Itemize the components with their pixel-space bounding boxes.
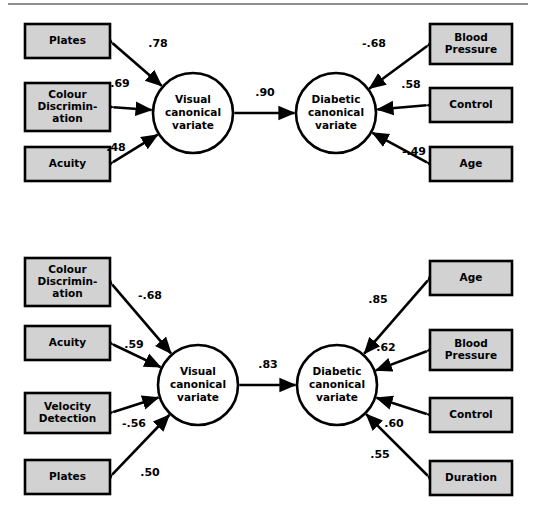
bottom-left-box-label-2-line: Detection bbox=[39, 412, 97, 424]
bottom-right-coefficient-2: .60 bbox=[384, 417, 404, 430]
top-left-coefficient-0: .78 bbox=[148, 37, 168, 50]
top-right-box-label-0-line: Blood bbox=[454, 31, 488, 43]
bottom-right-oval-label-line: Diabetic bbox=[313, 365, 362, 377]
top-left-box-label-1-line: ation bbox=[52, 112, 82, 124]
bottom-right-box-label-1-line: Pressure bbox=[445, 349, 497, 361]
top-left-box-label-0-line: Plates bbox=[49, 34, 86, 46]
bottom-center-coefficient: .83 bbox=[258, 358, 278, 371]
bottom-left-connector-2 bbox=[113, 398, 158, 412]
top-left-box-label-2-line: Acuity bbox=[49, 157, 86, 169]
top-left-box-label-1-line: Colour bbox=[48, 88, 87, 100]
top-right-box-label-2-line: Age bbox=[460, 157, 483, 169]
path-diagram-figure: PlatesColourDiscrimin-ationAcuityBloodPr… bbox=[0, 0, 534, 526]
bottom-left-box-label-1: Acuity bbox=[49, 336, 86, 348]
top-right-box-label-2: Age bbox=[460, 157, 483, 169]
bottom-left-connector-2-line bbox=[113, 398, 158, 412]
bottom-right-box-label-0-line: Age bbox=[460, 271, 483, 283]
top-left-oval-label-line: variate bbox=[172, 119, 214, 131]
bottom-left-box-label-0-line: Discrimin- bbox=[38, 275, 98, 287]
top-right-oval-label-line: canonical bbox=[308, 106, 364, 118]
bottom-right-box-label-3: Duration bbox=[445, 471, 497, 483]
top-left-coefficient-1: .69 bbox=[110, 77, 130, 90]
bottom-right-connector-0-line bbox=[364, 281, 427, 354]
top-right-oval-label-line: variate bbox=[315, 119, 357, 131]
top-center-coefficient: .90 bbox=[255, 86, 275, 99]
bottom-right-coefficient-0: .85 bbox=[368, 293, 388, 306]
diagram-top: PlatesColourDiscrimin-ationAcuityBloodPr… bbox=[25, 24, 512, 181]
top-right-box-label-1-line: Control bbox=[449, 98, 492, 110]
top-left-box-label-0: Plates bbox=[49, 34, 86, 46]
diagram-canvas: PlatesColourDiscrimin-ationAcuityBloodPr… bbox=[0, 0, 534, 526]
top-left-coefficient-2: .48 bbox=[106, 141, 126, 154]
bottom-right-connector-1-line bbox=[376, 351, 427, 370]
bottom-right-connector-2-line bbox=[376, 398, 426, 414]
bottom-left-box-label-3-line: Plates bbox=[49, 470, 86, 482]
top-left-box-label-2: Acuity bbox=[49, 157, 86, 169]
bottom-left-box-label-3: Plates bbox=[49, 470, 86, 482]
bottom-right-box-label-1-line: Blood bbox=[454, 337, 488, 349]
bottom-left-coefficient-0: -.68 bbox=[138, 289, 162, 302]
bottom-left-coefficient-3: .50 bbox=[140, 466, 160, 479]
top-right-connector-1-line bbox=[377, 105, 426, 109]
bottom-left-box-label-0-line: ation bbox=[52, 287, 82, 299]
bottom-right-connector-1 bbox=[376, 351, 427, 370]
top-right-coefficient-1: .58 bbox=[401, 78, 421, 91]
top-left-oval-label-line: canonical bbox=[165, 106, 221, 118]
diagram-bottom: ColourDiscrimin-ationAcuityVelocityDetec… bbox=[25, 258, 512, 495]
bottom-left-oval-label-line: canonical bbox=[170, 378, 226, 390]
bottom-right-box-label-2-line: Control bbox=[449, 408, 492, 420]
bottom-left-box-label-2: VelocityDetection bbox=[39, 400, 97, 424]
top-left-box-label-1-line: Discrimin- bbox=[38, 100, 98, 112]
top-right-oval-label-line: Diabetic bbox=[312, 93, 361, 105]
bottom-left-box-label-0-line: Colour bbox=[48, 263, 87, 275]
bottom-left-coefficient-2: -.56 bbox=[122, 417, 146, 430]
bottom-right-connector-2 bbox=[376, 398, 426, 414]
bottom-left-box-label-1-line: Acuity bbox=[49, 336, 86, 348]
top-right-connector-1 bbox=[377, 105, 426, 109]
bottom-right-coefficient-3: .55 bbox=[370, 448, 390, 461]
bottom-right-oval-label-line: variate bbox=[316, 391, 358, 403]
bottom-right-box-label-0: Age bbox=[460, 271, 483, 283]
top-right-coefficient-2: -.49 bbox=[402, 145, 426, 158]
top-left-connector-1-line bbox=[113, 107, 151, 110]
bottom-right-box-label-2: Control bbox=[449, 408, 492, 420]
bottom-right-oval-label: Diabeticcanonicalvariate bbox=[309, 365, 365, 402]
bottom-right-connector-0 bbox=[364, 281, 427, 354]
top-left-oval-label-line: Visual bbox=[175, 93, 211, 105]
top-right-coefficient-0: -.68 bbox=[362, 37, 386, 50]
bottom-left-coefficient-1: .59 bbox=[124, 338, 144, 351]
top-divider-rule bbox=[8, 3, 528, 5]
bottom-right-oval-label-line: canonical bbox=[309, 378, 365, 390]
top-right-box-label-1: Control bbox=[449, 98, 492, 110]
bottom-left-oval-label-line: Visual bbox=[180, 365, 216, 377]
top-right-box-label-0-line: Pressure bbox=[445, 43, 497, 55]
top-right-oval-label: Diabeticcanonicalvariate bbox=[308, 93, 364, 130]
bottom-left-box-label-2-line: Velocity bbox=[44, 400, 91, 412]
bottom-left-oval-label-line: variate bbox=[177, 391, 219, 403]
top-left-connector-1 bbox=[113, 107, 151, 110]
bottom-right-coefficient-1: .62 bbox=[376, 341, 396, 354]
bottom-right-box-label-3-line: Duration bbox=[445, 471, 497, 483]
